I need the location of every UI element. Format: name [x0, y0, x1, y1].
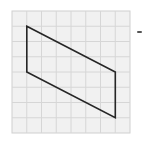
graph-paper-grid: [0, 0, 145, 148]
grid-diagram: [0, 0, 145, 148]
dash-mark: [137, 31, 142, 33]
